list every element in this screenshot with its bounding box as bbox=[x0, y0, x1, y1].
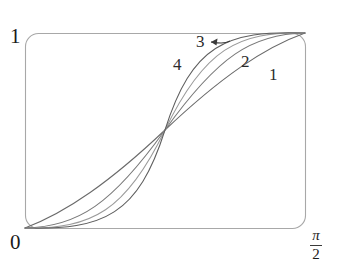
curve-label-2: 2 bbox=[241, 53, 250, 70]
curve-label-1: 1 bbox=[269, 66, 278, 83]
fraction-denominator: 2 bbox=[310, 246, 322, 263]
sigmoid-family-figure: 1 0 π 2 1 2 3 4 bbox=[0, 0, 337, 272]
y-axis-max-label: 1 bbox=[10, 26, 21, 47]
fraction-numerator: π bbox=[310, 228, 322, 246]
curve-label-3: 3 bbox=[196, 33, 205, 50]
origin-label: 0 bbox=[10, 232, 21, 253]
curve-label-4: 4 bbox=[173, 56, 182, 73]
pi-over-two-fraction: π 2 bbox=[310, 228, 322, 263]
annotation-arrow-to-curve-3 bbox=[211, 39, 230, 46]
curve-4 bbox=[25, 33, 305, 229]
x-axis-max-label: π 2 bbox=[303, 228, 329, 263]
plot-frame bbox=[26, 34, 306, 229]
plot-canvas bbox=[0, 0, 337, 272]
